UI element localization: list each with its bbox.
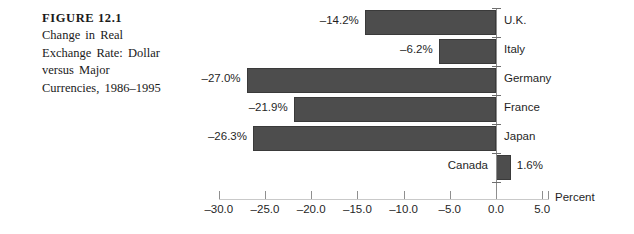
bar-germany[interactable] bbox=[247, 68, 496, 93]
category-tick bbox=[492, 153, 501, 154]
value-tick-label: 5.0 bbox=[534, 203, 550, 215]
category-tick bbox=[492, 37, 501, 38]
value-tick-label: –10.0 bbox=[389, 203, 418, 215]
value-tick bbox=[450, 191, 451, 199]
category-label: Canada bbox=[434, 159, 488, 171]
bar-value-label: –21.9% bbox=[242, 101, 288, 113]
bar-row: 1.6%Canada bbox=[0, 155, 634, 180]
value-tick bbox=[542, 191, 543, 199]
bar-row: –14.2%U.K. bbox=[0, 10, 634, 35]
value-tick bbox=[357, 191, 358, 199]
value-tick bbox=[219, 191, 220, 199]
value-tick-label: –5.0 bbox=[439, 203, 461, 215]
category-tick bbox=[492, 66, 501, 67]
value-tick bbox=[496, 191, 497, 199]
value-tick bbox=[311, 191, 312, 199]
bar-row: –21.9%France bbox=[0, 97, 634, 122]
category-label: Italy bbox=[504, 43, 525, 55]
bar-canada[interactable] bbox=[496, 155, 511, 180]
bar-italy[interactable] bbox=[439, 39, 496, 64]
value-tick-label: 0.0 bbox=[488, 203, 504, 215]
value-axis-line bbox=[219, 199, 549, 200]
category-tick bbox=[492, 8, 501, 9]
bar-value-label: –14.2% bbox=[313, 14, 359, 26]
value-tick-label: –30.0 bbox=[204, 203, 233, 215]
bar-value-label: 1.6% bbox=[517, 159, 543, 171]
value-tick-label: –20.0 bbox=[297, 203, 326, 215]
bar-uk[interactable] bbox=[365, 10, 496, 35]
category-label: Japan bbox=[504, 130, 535, 142]
figure-panel: FIGURE 12.1 Change in Real Exchange Rate… bbox=[0, 0, 634, 234]
category-tick bbox=[492, 95, 501, 96]
bar-value-label: –27.0% bbox=[195, 72, 241, 84]
bar-france[interactable] bbox=[294, 97, 496, 122]
x-axis-title: Percent bbox=[555, 191, 595, 203]
value-tick-label: –25.0 bbox=[251, 203, 280, 215]
category-label: France bbox=[504, 101, 540, 113]
bar-row: –6.2%Italy bbox=[0, 39, 634, 64]
category-label: U.K. bbox=[504, 14, 526, 26]
bar-value-label: –6.2% bbox=[387, 43, 433, 55]
category-label: Germany bbox=[504, 72, 551, 84]
bar-row: –26.3%Japan bbox=[0, 126, 634, 151]
bar-chart: –14.2%U.K.–6.2%Italy–27.0%Germany–21.9%F… bbox=[0, 0, 634, 234]
category-tick bbox=[492, 124, 501, 125]
axis-title-tick bbox=[548, 191, 549, 199]
bar-row: –27.0%Germany bbox=[0, 68, 634, 93]
value-tick bbox=[404, 191, 405, 199]
value-tick bbox=[265, 191, 266, 199]
bar-japan[interactable] bbox=[253, 126, 496, 151]
bar-value-label: –26.3% bbox=[201, 130, 247, 142]
value-tick-label: –15.0 bbox=[343, 203, 372, 215]
category-tick bbox=[492, 182, 501, 183]
